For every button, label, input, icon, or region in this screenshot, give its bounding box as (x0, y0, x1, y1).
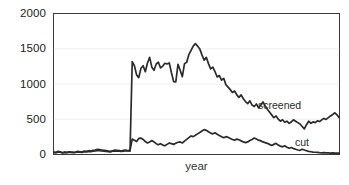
ytick-label-0: 0 (2, 148, 46, 160)
x-axis-title: year (53, 160, 340, 172)
ytick-label-1500: 1500 (2, 42, 46, 54)
chart-figure: 2000 1500 1000 500 0 screened cut year (0, 0, 349, 185)
plot-area (53, 13, 340, 155)
series-label-screened: screened (258, 99, 301, 111)
ytick-label-2000: 2000 (2, 7, 46, 19)
series-label-cut: cut (295, 136, 309, 148)
ytick-label-1000: 1000 (2, 78, 46, 90)
ytick-label-500: 500 (2, 113, 46, 125)
